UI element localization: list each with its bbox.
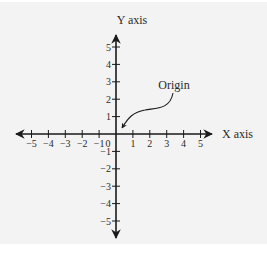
x-axis-label: X axis: [222, 127, 253, 141]
y-tick-label: −5: [100, 216, 111, 227]
x-axis-tick-labels: −5−4−3−2−112345: [26, 138, 203, 149]
y-tick-label: −3: [100, 181, 111, 192]
origin-callout-arrow: [122, 93, 173, 128]
origin-callout-label: Origin: [158, 78, 189, 92]
x-tick-label: 5: [198, 138, 203, 149]
y-tick-label: 3: [106, 76, 111, 87]
y-tick-label: 4: [106, 59, 111, 70]
y-tick-label: −4: [100, 198, 111, 209]
coordinate-plane: −5−4−3−2−112345 54321−1−2−3−4−5 0 Y axis…: [0, 0, 267, 254]
x-tick-label: −2: [77, 138, 88, 149]
x-tick-label: −3: [60, 138, 71, 149]
x-tick-label: 2: [147, 138, 152, 149]
x-tick-label: 1: [130, 138, 135, 149]
origin-zero-label: 0: [106, 138, 111, 149]
x-tick-label: −4: [43, 138, 54, 149]
y-tick-label: −2: [100, 163, 111, 174]
y-axis-label: Y axis: [117, 13, 148, 27]
y-tick-label: 1: [106, 111, 111, 122]
y-tick-label: 5: [106, 42, 111, 53]
x-tick-label: 4: [181, 138, 186, 149]
x-tick-label: 3: [164, 138, 169, 149]
x-tick-label: −5: [26, 138, 37, 149]
y-tick-label: 2: [106, 94, 111, 105]
